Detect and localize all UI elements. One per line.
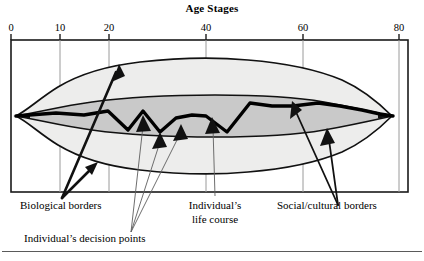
annotation-decision-points: Individual’s decision points bbox=[24, 232, 146, 244]
annotation-life-course-line1: Individual’s bbox=[176, 199, 254, 211]
annotation-social-cultural-borders: Social/cultural borders bbox=[277, 199, 377, 211]
axis-ticks bbox=[11, 34, 399, 40]
figure-container: Age Stages 0 10 20 40 60 80 bbox=[0, 0, 424, 261]
annotation-life-course-line2: life course bbox=[176, 213, 254, 225]
annotation-biological-borders: Biological borders bbox=[20, 199, 102, 211]
bottom-divider bbox=[2, 251, 422, 252]
